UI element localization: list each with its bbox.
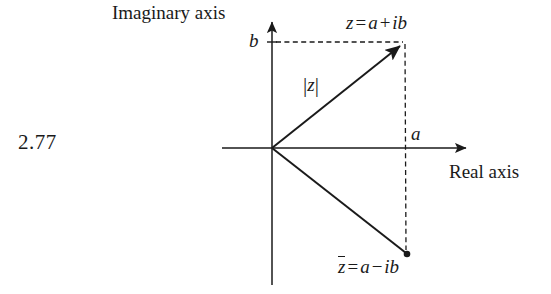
point-label-z: z=a+ib (346, 13, 407, 32)
a-guide-dashed-line (405, 44, 406, 250)
point-zbar-operator: − (370, 256, 385, 277)
figure-number: 2.77 (18, 132, 57, 153)
point-z-equals: = (353, 12, 368, 33)
point-z-imaginary-part: ib (392, 12, 407, 33)
real-tick-label-a: a (411, 124, 421, 143)
point-z-real-part: a (368, 12, 378, 33)
conjugate-point-marker (404, 251, 411, 258)
modulus-variable: z (307, 74, 314, 95)
point-z-operator: + (378, 12, 393, 33)
point-zbar-imaginary-part: ib (384, 256, 399, 277)
real-axis-label: Real axis (449, 162, 519, 181)
modulus-right-bar: | (315, 73, 319, 97)
imaginary-tick-label-b: b (249, 31, 259, 50)
point-label-z-conjugate: z=a−ib (338, 256, 399, 276)
point-zbar-real-part: a (360, 256, 370, 277)
imaginary-axis-label: Imaginary axis (112, 3, 225, 22)
figure-container: 2.77 Imaginary axis Real axis b a |z| z=… (0, 0, 551, 294)
modulus-label: |z| (303, 75, 319, 96)
conjugate-vector-ray (272, 148, 406, 253)
modulus-vector-ray (272, 46, 400, 148)
point-zbar-equals: = (345, 256, 360, 277)
complex-plane-diagram (0, 0, 551, 294)
